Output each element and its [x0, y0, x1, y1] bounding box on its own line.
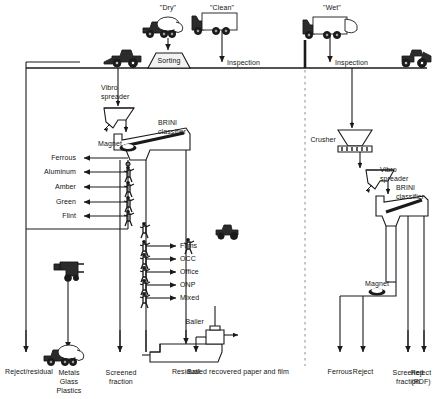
label-output-screened-fraction-left: Screened fraction	[99, 368, 143, 386]
label-pick-ferrous: Ferrous	[30, 154, 76, 163]
label-output-reject-rdf: Reject (RDF)	[408, 368, 433, 386]
label-pick-aluminum: Aluminum	[26, 168, 76, 177]
wheel-loader-right-icon	[402, 50, 431, 68]
label-pick-onp: ONP	[180, 281, 195, 290]
label-pick-office: Office	[180, 268, 199, 277]
label-output-metals-glass-plastics: Metals Glass Plastics	[50, 368, 88, 395]
label-pick-green: Green	[30, 198, 76, 207]
forklift-icon	[54, 262, 84, 281]
process-flow-diagram: "Dry" "Clean" "Wet" Sorting Inspection I…	[0, 0, 433, 399]
label-pick-occ: OCC	[180, 255, 196, 264]
label-pick-films: Films	[180, 242, 197, 251]
label-magnet-left: Magnet	[82, 140, 122, 149]
label-dry-stream: "Dry"	[148, 4, 188, 13]
label-pick-flint: Flint	[30, 212, 76, 221]
label-crusher: Crusher	[296, 136, 336, 145]
label-inspection-wet: Inspection	[335, 59, 368, 68]
wet-truck-icon	[303, 17, 357, 39]
label-brini-classifier-left: BRINI classifier	[158, 118, 204, 136]
magnet-right-icon	[369, 288, 386, 296]
label-output-reject-residual: Reject/residual	[2, 368, 56, 377]
picker-icons-paper	[140, 222, 150, 308]
mini-loader-residual-icon	[216, 225, 238, 240]
label-pick-mixed: Mixed	[180, 294, 199, 303]
label-pick-amber: Amber	[30, 183, 76, 192]
label-bailer: Bailer	[170, 318, 204, 327]
label-wet-stream: "Wet"	[312, 4, 352, 13]
metals-glass-plastics-truck-icon	[44, 345, 84, 366]
dry-truck-icon	[143, 17, 183, 38]
label-vibro-spreader-right: Vibro spreader	[380, 165, 424, 183]
label-output-bailed-paper: Bailed recovered paper and film	[187, 368, 307, 377]
label-sorting-station: Sorting	[149, 57, 189, 66]
label-inspection-clean: Inspection	[227, 59, 260, 68]
crusher-icon	[338, 130, 372, 152]
label-output-reject: Reject	[345, 368, 381, 377]
clean-truck-icon	[192, 13, 237, 35]
vibro-spreader-left-icon	[104, 108, 134, 132]
label-clean-stream: "Clean"	[200, 4, 244, 13]
wheel-loader-left-icon	[104, 50, 141, 68]
label-brini-classifier-right: BRINI classifier	[396, 183, 433, 201]
label-magnet-right: Magnet	[357, 280, 397, 289]
residual-container-icon	[142, 344, 222, 362]
label-vibro-spreader-left: Vibro spreader	[101, 83, 143, 101]
